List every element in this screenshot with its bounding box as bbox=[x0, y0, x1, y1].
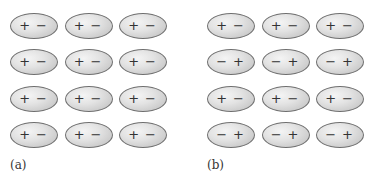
positive-charge: + bbox=[233, 55, 244, 68]
dipole-molecule: −+ bbox=[316, 49, 364, 75]
dipole-molecule: −+ bbox=[207, 122, 255, 148]
negative-charge: − bbox=[287, 19, 298, 32]
dipole-molecule: +− bbox=[119, 13, 167, 39]
dipole-molecule: −+ bbox=[262, 122, 310, 148]
negative-charge: − bbox=[216, 55, 227, 68]
positive-charge: + bbox=[74, 55, 85, 68]
dipole-molecule: +− bbox=[65, 86, 113, 112]
positive-charge: + bbox=[74, 128, 85, 141]
dipole-molecule: +− bbox=[262, 13, 310, 39]
negative-charge: − bbox=[216, 128, 227, 141]
dipole-molecule: −+ bbox=[207, 49, 255, 75]
negative-charge: − bbox=[271, 55, 282, 68]
positive-charge: + bbox=[19, 19, 30, 32]
positive-charge: + bbox=[74, 19, 85, 32]
dipole-molecule: +− bbox=[207, 86, 255, 112]
dipole-molecule: −+ bbox=[262, 49, 310, 75]
panel-b: +−+−+−−+−+−++−+−+−−+−+−+(b) bbox=[197, 0, 371, 180]
positive-charge: + bbox=[19, 55, 30, 68]
positive-charge: + bbox=[216, 91, 227, 104]
dipole-molecule: +− bbox=[10, 13, 58, 39]
dipole-molecule: +− bbox=[10, 49, 58, 75]
negative-charge: − bbox=[342, 19, 353, 32]
positive-charge: + bbox=[216, 19, 227, 32]
negative-charge: − bbox=[145, 19, 156, 32]
positive-charge: + bbox=[74, 91, 85, 104]
dipole-molecule: +− bbox=[10, 86, 58, 112]
positive-charge: + bbox=[19, 128, 30, 141]
negative-charge: − bbox=[90, 55, 101, 68]
negative-charge: − bbox=[90, 19, 101, 32]
negative-charge: − bbox=[145, 128, 156, 141]
positive-charge: + bbox=[128, 128, 139, 141]
dipole-molecule: +− bbox=[119, 122, 167, 148]
dipole-molecule: +− bbox=[262, 86, 310, 112]
dipole-molecule: +− bbox=[316, 86, 364, 112]
negative-charge: − bbox=[36, 19, 47, 32]
dipole-molecule: +− bbox=[119, 49, 167, 75]
panel-label: (b) bbox=[207, 158, 224, 172]
negative-charge: − bbox=[90, 128, 101, 141]
positive-charge: + bbox=[287, 128, 298, 141]
positive-charge: + bbox=[128, 19, 139, 32]
positive-charge: + bbox=[271, 19, 282, 32]
negative-charge: − bbox=[233, 91, 244, 104]
dipole-molecule: −+ bbox=[316, 122, 364, 148]
negative-charge: − bbox=[342, 91, 353, 104]
dipole-molecule: +− bbox=[65, 49, 113, 75]
negative-charge: − bbox=[325, 128, 336, 141]
dipole-molecule: +− bbox=[10, 122, 58, 148]
negative-charge: − bbox=[145, 55, 156, 68]
negative-charge: − bbox=[36, 91, 47, 104]
positive-charge: + bbox=[271, 91, 282, 104]
negative-charge: − bbox=[233, 19, 244, 32]
panel-a: +−+−+−+−+−+−+−+−+−+−+−+−(a) bbox=[0, 0, 185, 180]
dipole-molecule: +− bbox=[65, 122, 113, 148]
positive-charge: + bbox=[128, 91, 139, 104]
dipole-molecule: +− bbox=[207, 13, 255, 39]
positive-charge: + bbox=[128, 55, 139, 68]
negative-charge: − bbox=[36, 55, 47, 68]
negative-charge: − bbox=[36, 128, 47, 141]
positive-charge: + bbox=[342, 55, 353, 68]
negative-charge: − bbox=[271, 128, 282, 141]
positive-charge: + bbox=[19, 91, 30, 104]
negative-charge: − bbox=[287, 91, 298, 104]
negative-charge: − bbox=[90, 91, 101, 104]
dipole-molecule: +− bbox=[316, 13, 364, 39]
dipole-molecule: +− bbox=[119, 86, 167, 112]
negative-charge: − bbox=[325, 55, 336, 68]
positive-charge: + bbox=[325, 91, 336, 104]
negative-charge: − bbox=[145, 91, 156, 104]
positive-charge: + bbox=[325, 19, 336, 32]
positive-charge: + bbox=[287, 55, 298, 68]
positive-charge: + bbox=[342, 128, 353, 141]
positive-charge: + bbox=[233, 128, 244, 141]
panel-label: (a) bbox=[10, 158, 27, 172]
dipole-molecule: +− bbox=[65, 13, 113, 39]
